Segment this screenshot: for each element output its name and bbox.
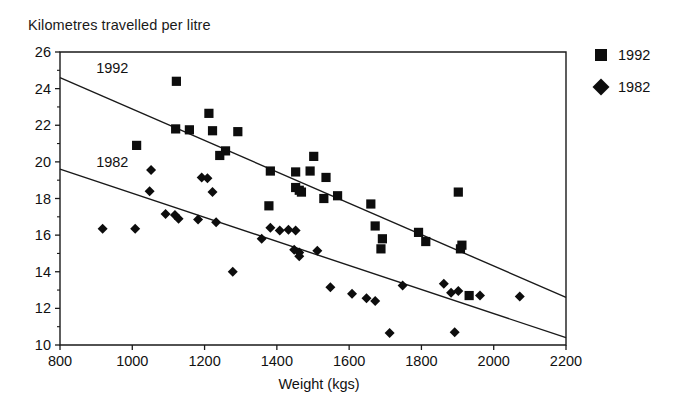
chart-page: Kilometres travelled per litre 101214161… <box>0 0 692 419</box>
legend-marker-diamond-icon <box>593 78 610 95</box>
data-point-1982 <box>161 209 171 219</box>
y-axis-tick-label: 18 <box>35 191 51 207</box>
x-axis-tick-label: 2200 <box>550 353 582 369</box>
data-point-1992 <box>414 228 423 237</box>
data-point-1992 <box>208 126 217 135</box>
inline-label-1982: 1982 <box>96 154 128 170</box>
data-point-1992 <box>378 234 387 243</box>
x-axis-tick-label: 1000 <box>116 353 148 369</box>
legend-label-1982: 1982 <box>618 80 650 95</box>
plot-frame <box>60 52 566 345</box>
x-axis-tick-label: 1600 <box>333 353 365 369</box>
data-point-1982 <box>453 286 463 296</box>
data-point-1982 <box>450 327 460 337</box>
data-point-1982 <box>208 187 218 197</box>
data-point-1982 <box>361 293 371 303</box>
scatter-plot: 1012141618202224268001000120014001600180… <box>0 0 692 419</box>
data-point-1992 <box>465 291 474 300</box>
data-point-1992 <box>376 244 385 253</box>
data-point-1982 <box>439 279 449 289</box>
data-point-1992 <box>319 194 328 203</box>
data-point-1992 <box>309 152 318 161</box>
data-point-1982 <box>145 186 155 196</box>
data-point-1982 <box>130 224 140 234</box>
data-point-1982 <box>347 289 357 299</box>
y-axis-tick-label: 14 <box>35 264 51 280</box>
x-axis-tick-label: 1800 <box>405 353 437 369</box>
inline-label-1992: 1992 <box>96 60 128 76</box>
y-axis-tick-label: 10 <box>35 337 51 353</box>
legend-marker-square-icon <box>595 49 607 61</box>
y-axis-tick-label: 12 <box>35 300 51 316</box>
data-point-1992 <box>291 167 300 176</box>
data-point-1982 <box>146 165 156 175</box>
data-point-1992 <box>421 237 430 246</box>
data-point-1992 <box>297 187 306 196</box>
y-axis-tick-label: 16 <box>35 227 51 243</box>
x-axis-title: Weight (kgs) <box>278 376 359 392</box>
data-point-1992 <box>454 187 463 196</box>
data-point-1982 <box>228 267 238 277</box>
data-point-1992 <box>233 127 242 136</box>
data-point-1992 <box>132 141 141 150</box>
data-point-1982 <box>446 288 456 298</box>
y-axis-tick-label: 26 <box>35 44 51 60</box>
chart-legend: 1992 1982 <box>595 48 650 94</box>
data-point-1992 <box>185 125 194 134</box>
data-point-1982 <box>325 282 335 292</box>
data-point-1982 <box>265 223 275 233</box>
data-point-1982 <box>475 291 485 301</box>
legend-item-1982[interactable]: 1982 <box>595 80 650 95</box>
y-axis-tick-label: 24 <box>35 81 51 97</box>
x-axis-tick-label: 800 <box>48 353 72 369</box>
data-point-1992 <box>264 201 273 210</box>
data-point-1992 <box>266 166 275 175</box>
data-point-1992 <box>215 151 224 160</box>
y-axis-tick-label: 22 <box>35 117 51 133</box>
y-axis-tick-label: 20 <box>35 154 51 170</box>
data-point-1992 <box>333 191 342 200</box>
data-point-1992 <box>172 77 181 86</box>
data-point-1992 <box>306 166 315 175</box>
trend-line-1982 <box>60 169 566 337</box>
data-point-1992 <box>204 109 213 118</box>
data-point-1982 <box>275 226 285 236</box>
data-point-1992 <box>456 244 465 253</box>
data-point-1982 <box>515 291 525 301</box>
data-point-1992 <box>371 221 380 230</box>
data-point-1982 <box>385 328 395 338</box>
legend-item-1992[interactable]: 1992 <box>595 48 650 63</box>
data-point-1982 <box>98 224 108 234</box>
x-axis-tick-label: 1200 <box>188 353 220 369</box>
data-point-1992 <box>321 173 330 182</box>
x-axis-tick-label: 1400 <box>261 353 293 369</box>
data-point-1992 <box>171 124 180 133</box>
data-point-1992 <box>366 199 375 208</box>
data-point-1982 <box>291 226 301 236</box>
data-point-1982 <box>211 217 221 227</box>
legend-label-1992: 1992 <box>618 48 650 63</box>
x-axis-tick-label: 2000 <box>478 353 510 369</box>
trend-line-1992 <box>60 78 566 298</box>
data-point-1982 <box>370 296 380 306</box>
